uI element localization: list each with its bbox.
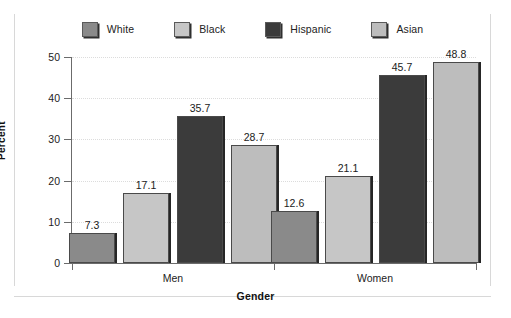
y-axis-tick-label: 10 [14,216,60,228]
y-axis-tick-label: 20 [14,175,60,187]
gridline [72,57,476,59]
y-axis-tick-label: 0 [14,257,60,269]
bar-value-label: 7.3 [85,219,100,231]
bar-value-label: 48.8 [446,48,466,60]
bar-men-white[interactable] [69,233,115,263]
legend-label: Hispanic [290,23,331,35]
bar-women-asian[interactable] [433,62,479,263]
bar-men-black[interactable] [123,193,169,263]
y-axis-tick [64,222,71,223]
legend-swatch-icon [265,22,281,37]
y-axis-tick-label: 30 [14,133,60,145]
bar-women-hispanic[interactable] [379,75,425,263]
bar-value-label: 17.1 [136,179,156,191]
x-axis-group-label-women: Women [357,272,393,284]
legend-item-hispanic[interactable]: Hispanic [265,22,331,37]
chart-legend: WhiteBlackHispanicAsian [14,16,491,42]
y-axis-tick [64,98,71,99]
legend-swatch-icon [174,22,190,37]
bar-value-label: 21.1 [338,162,358,174]
bar-value-label: 28.7 [244,131,264,143]
figure-border-right [490,14,491,286]
bar-women-white[interactable] [271,211,317,263]
y-axis-tick [64,181,71,182]
y-axis-title: Percent [0,121,7,160]
legend-item-white[interactable]: White [82,22,134,37]
chart-figure: WhiteBlackHispanicAsian Percent Gender 0… [0,0,511,318]
bar-men-hispanic[interactable] [177,116,223,263]
bar-women-black[interactable] [325,176,371,263]
x-axis-tick [274,263,275,270]
y-axis-tick-label: 50 [14,51,60,63]
y-axis-tick [64,57,71,58]
legend-label: Asian [396,23,423,35]
bar-value-label: 45.7 [392,61,412,73]
legend-label: Black [199,23,225,35]
y-axis-tick [64,263,71,264]
x-axis-tick [476,263,477,270]
legend-swatch-icon [82,22,98,37]
legend-item-asian[interactable]: Asian [371,22,423,37]
bar-value-label: 12.6 [284,197,304,209]
legend-item-black[interactable]: Black [174,22,225,37]
x-axis-group-label-men: Men [163,272,183,284]
bar-value-label: 35.7 [190,102,210,114]
legend-label: White [107,23,134,35]
x-axis-tick [72,263,73,270]
x-axis-title: Gender [0,290,511,302]
y-axis-tick [64,139,71,140]
legend-swatch-icon [371,22,387,37]
y-axis-tick-label: 40 [14,92,60,104]
